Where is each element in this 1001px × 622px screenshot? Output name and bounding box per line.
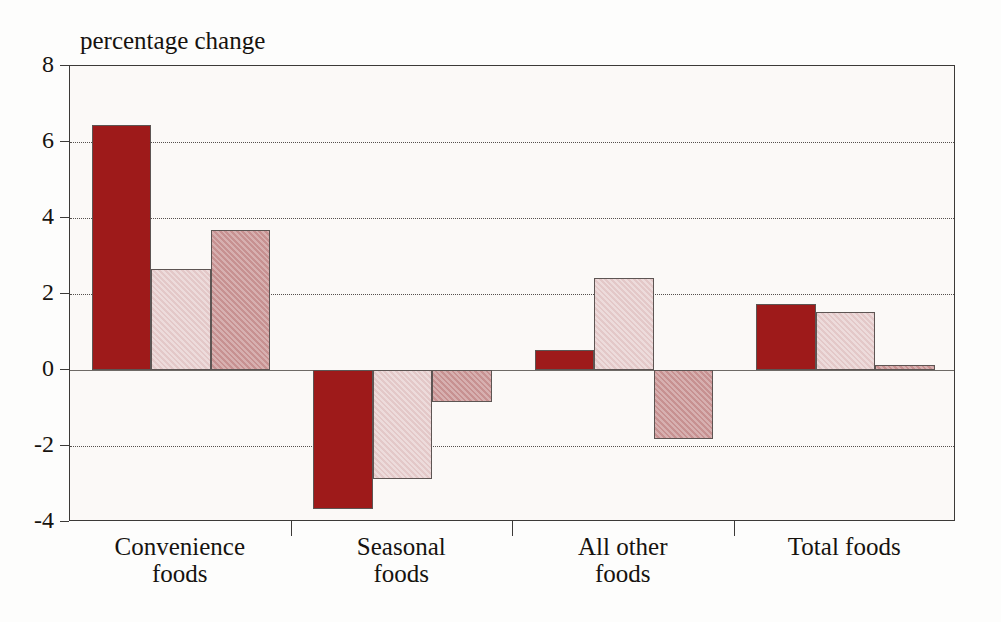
bar-group-4-series-3 [875,365,935,370]
y-tick-label-6: 6 [8,128,54,152]
x-category-label-line1: All other [578,533,668,560]
x-category-label-line2: foods [512,560,734,587]
axis-title: percentage change [80,27,265,55]
chart-page: percentage change 86420-2-4 Conveniencef… [0,0,1001,622]
bar-group-3-series-3 [654,370,714,439]
x-category-label-4: Total foods [734,533,956,560]
bar-group-3-series-2 [594,278,654,370]
bar-group-4-series-2 [816,312,876,370]
x-category-label-line1: Seasonal [357,533,446,560]
bar-group-1-series-2 [151,269,211,370]
y-tick-label-2: 2 [8,280,54,304]
x-category-label-line1: Total foods [788,533,901,560]
y-tick-mark-8 [60,65,69,66]
gridline-6 [70,142,954,143]
x-group-separator-3 [734,521,735,536]
y-tick-mark-2 [60,293,69,294]
bar-group-1-series-3 [211,230,271,370]
bar-group-2-series-2 [373,370,433,479]
x-category-label-line1: Convenience [114,533,245,560]
x-group-separator-1 [291,521,292,536]
zero-line [70,370,954,371]
y-tick-mark-4 [60,217,69,218]
y-tick-label--2: -2 [8,432,54,456]
x-group-separator-2 [512,521,513,536]
bar-group-1-series-1 [92,125,152,370]
x-category-label-2: Seasonalfoods [291,533,513,587]
bar-group-4-series-1 [756,304,816,370]
y-tick-label--4: -4 [8,508,54,532]
y-tick-mark-6 [60,141,69,142]
y-tick-label-4: 4 [8,204,54,228]
x-category-label-line2: foods [291,560,513,587]
plot-area [69,65,955,521]
gridline--2 [70,446,954,447]
bar-group-3-series-1 [535,350,595,370]
bar-group-2-series-1 [313,370,373,509]
bar-group-2-series-3 [432,370,492,402]
y-tick-mark--4 [60,521,69,522]
x-category-label-1: Conveniencefoods [69,533,291,587]
gridline-4 [70,218,954,219]
y-tick-label-0: 0 [8,356,54,380]
y-tick-mark--2 [60,445,69,446]
x-category-label-3: All otherfoods [512,533,734,587]
y-tick-label-8: 8 [8,52,54,76]
y-tick-mark-0 [60,369,69,370]
x-category-label-line2: foods [69,560,291,587]
